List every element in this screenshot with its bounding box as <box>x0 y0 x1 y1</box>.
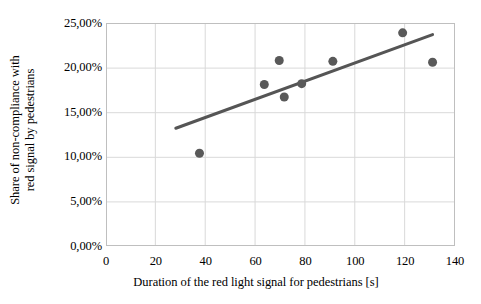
data-point <box>280 93 289 102</box>
x-tick-label: 100 <box>335 255 375 268</box>
x-tick-label: 20 <box>136 255 176 268</box>
x-tick-label: 80 <box>285 255 325 268</box>
x-tick-label: 60 <box>236 255 276 268</box>
x-tick-label: 120 <box>385 255 425 268</box>
x-tick-label: 40 <box>186 255 226 268</box>
data-point <box>297 79 306 88</box>
x-axis-title: Duration of the red light signal for ped… <box>46 275 466 289</box>
plot-area <box>106 23 455 246</box>
data-point <box>428 58 437 67</box>
data-point <box>195 149 204 158</box>
data-point <box>275 56 284 65</box>
x-tick-label: 140 <box>435 255 475 268</box>
scatter-chart-figure: Share of non-compliance with red signal … <box>0 0 481 304</box>
data-point <box>260 80 269 89</box>
data-point <box>398 28 407 37</box>
plot-canvas <box>106 23 455 246</box>
data-point <box>328 57 337 66</box>
x-tick-label: 0 <box>86 255 126 268</box>
